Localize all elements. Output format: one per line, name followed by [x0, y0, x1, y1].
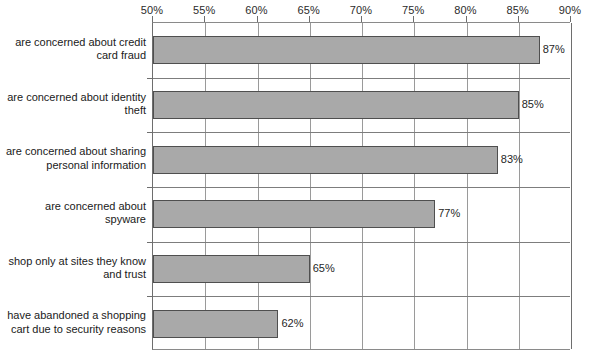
- gridline: [205, 23, 206, 349]
- category-label: are concerned about spyware: [0, 200, 146, 227]
- bar-value-label: 77%: [438, 207, 460, 219]
- bar-value-label: 83%: [501, 153, 523, 165]
- gridline: [571, 23, 572, 349]
- row-separator: [153, 187, 570, 188]
- x-axis-tick-label: 80%: [454, 4, 477, 16]
- row-separator: [153, 296, 570, 297]
- category-label: have abandoned a shopping cart due to se…: [0, 309, 146, 336]
- y-axis-tick-mark: [147, 78, 153, 79]
- bar-value-label: 65%: [313, 262, 335, 274]
- category-label: are concerned about credit card fraud: [0, 36, 146, 63]
- category-label: shop only at sites they know and trust: [0, 255, 146, 282]
- x-axis-tick-label: 50%: [141, 4, 164, 16]
- row-separator: [153, 132, 570, 133]
- gridline: [258, 23, 259, 349]
- bar: [153, 36, 540, 64]
- gridline: [467, 23, 468, 349]
- x-axis-tick-label: 85%: [506, 4, 529, 16]
- y-axis-tick-mark: [147, 242, 153, 243]
- gridline: [362, 23, 363, 349]
- bar: [153, 200, 435, 228]
- y-axis-tick-mark: [147, 187, 153, 188]
- row-separator: [153, 242, 570, 243]
- row-separator: [153, 78, 570, 79]
- bar: [153, 146, 498, 174]
- bar-value-label: 62%: [281, 317, 303, 329]
- x-axis-tick-label: 90%: [559, 4, 582, 16]
- category-label: are concerned about sharing personal inf…: [0, 145, 146, 172]
- plot-area: [152, 22, 570, 350]
- gridline: [310, 23, 311, 349]
- bar-value-label: 85%: [522, 98, 544, 110]
- bar: [153, 310, 278, 338]
- bar-value-label: 87%: [543, 43, 565, 55]
- y-axis-tick-mark: [147, 296, 153, 297]
- x-axis-tick-mark: [570, 16, 571, 22]
- gridline: [519, 23, 520, 349]
- x-axis-tick-label: 65%: [297, 4, 320, 16]
- bar: [153, 91, 519, 119]
- x-axis-tick-label: 60%: [245, 4, 268, 16]
- x-axis-tick-label: 55%: [193, 4, 216, 16]
- y-axis-tick-mark: [147, 132, 153, 133]
- x-axis-tick-label: 75%: [402, 4, 425, 16]
- x-axis-tick-label: 70%: [350, 4, 373, 16]
- gridline: [414, 23, 415, 349]
- bar: [153, 255, 310, 283]
- category-label: are concerned about identity theft: [0, 91, 146, 118]
- bar-chart: 50%55%60%65%70%75%80%85%90% are concerne…: [0, 0, 589, 359]
